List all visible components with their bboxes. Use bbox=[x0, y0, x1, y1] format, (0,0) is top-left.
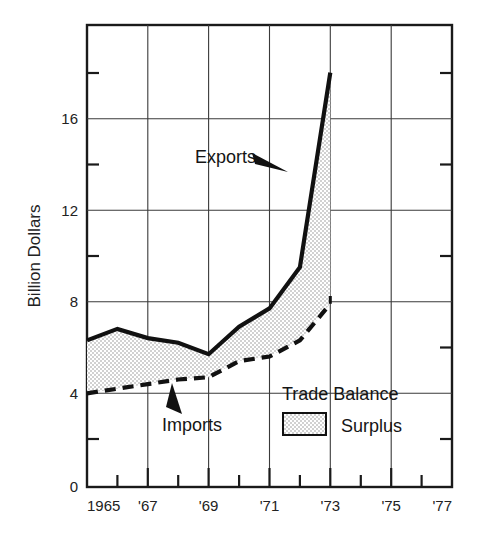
y-tick-label-4: 4 bbox=[70, 385, 78, 402]
x-tick-label-1977: '77 bbox=[432, 497, 452, 514]
y-axis-title: Billion Dollars bbox=[25, 205, 44, 308]
y-tick-label-0: 0 bbox=[70, 478, 78, 495]
chart-svg: Billion Dollars 16 12 8 4 0 1965 '67 '69… bbox=[0, 0, 487, 544]
trade-balance-chart: Billion Dollars 16 12 8 4 0 1965 '67 '69… bbox=[0, 0, 487, 544]
legend-entry-surplus: Surplus bbox=[341, 416, 402, 436]
y-tick-label-16: 16 bbox=[61, 110, 78, 127]
x-tick-label-1967: '67 bbox=[138, 497, 158, 514]
imports-label: Imports bbox=[162, 415, 222, 435]
x-tick-label-1965: 1965 bbox=[87, 497, 120, 514]
y-tick-label-12: 12 bbox=[61, 202, 78, 219]
x-tick-label-1975: '75 bbox=[381, 497, 401, 514]
exports-label: Exports bbox=[195, 147, 256, 167]
legend-heading: Trade Balance bbox=[282, 384, 398, 404]
surplus-swatch bbox=[283, 413, 326, 435]
x-tick-label-1971: '71 bbox=[260, 497, 280, 514]
x-tick-label-1973: '73 bbox=[321, 497, 341, 514]
chart-background bbox=[0, 0, 487, 544]
x-tick-label-1969: '69 bbox=[199, 497, 219, 514]
y-tick-label-8: 8 bbox=[70, 293, 78, 310]
